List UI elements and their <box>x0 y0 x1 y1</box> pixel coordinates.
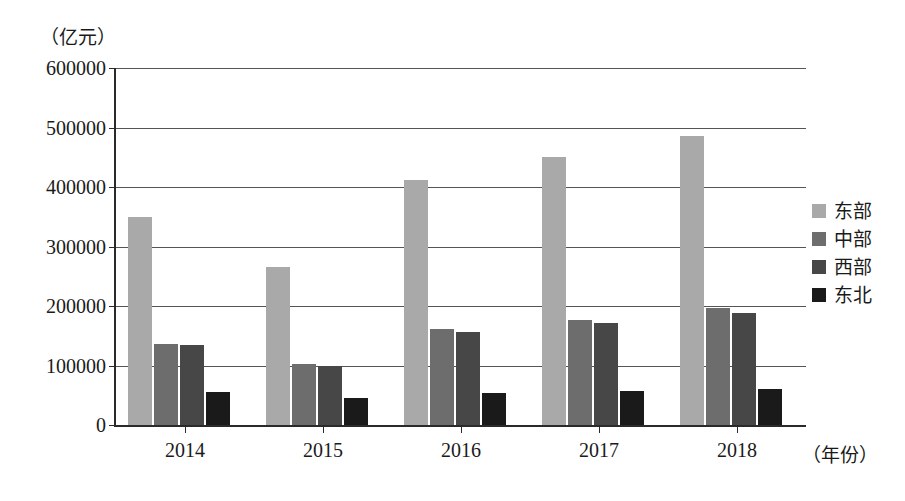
y-axis-tick <box>109 366 116 367</box>
x-axis-tick-label: 2018 <box>717 439 757 462</box>
legend-label: 东北 <box>834 286 872 305</box>
y-axis-tick <box>109 128 116 129</box>
bar-中部-2015 <box>292 364 316 425</box>
bar-东北-2016 <box>482 393 506 425</box>
bar-中部-2016 <box>430 329 454 425</box>
bar-group: 2017 <box>542 68 644 425</box>
x-axis-tick <box>737 425 738 433</box>
bar-group: 2016 <box>404 68 506 425</box>
x-axis-tick <box>323 425 324 433</box>
y-axis-tick-label: 300000 <box>46 235 106 258</box>
bar-西部-2015 <box>318 366 342 426</box>
x-axis-tick-label: 2014 <box>165 439 205 462</box>
x-axis-tick-label: 2016 <box>441 439 481 462</box>
x-axis-tick <box>599 425 600 433</box>
bar-中部-2014 <box>154 344 178 426</box>
y-axis-tick-label: 600000 <box>46 57 106 80</box>
legend-item-中部[interactable]: 中部 <box>812 225 902 253</box>
y-axis-unit-label: （亿元） <box>40 22 116 49</box>
bar-东北-2018 <box>758 389 782 425</box>
legend-label: 东部 <box>834 202 872 221</box>
legend-item-东部[interactable]: 东部 <box>812 197 902 225</box>
legend-label: 西部 <box>834 258 872 277</box>
bar-西部-2016 <box>456 332 480 425</box>
bar-中部-2017 <box>568 320 592 425</box>
bar-东部-2016 <box>404 180 428 425</box>
legend-label: 中部 <box>834 230 872 249</box>
bar-东北-2017 <box>620 391 644 425</box>
x-axis-tick <box>185 425 186 433</box>
bar-group: 2015 <box>266 68 368 425</box>
y-axis-tick <box>109 68 116 69</box>
y-axis-tick <box>109 247 116 248</box>
bar-chart: （亿元） 01000002000003000004000005000006000… <box>0 0 905 501</box>
legend-swatch-icon <box>812 232 826 246</box>
bar-中部-2018 <box>706 308 730 425</box>
bar-西部-2014 <box>180 345 204 425</box>
bar-groups: 20142015201620172018 <box>116 68 806 425</box>
y-axis-tick-label: 100000 <box>46 354 106 377</box>
y-axis-tick <box>109 306 116 307</box>
y-axis-tick <box>109 187 116 188</box>
legend-item-东北[interactable]: 东北 <box>812 281 902 309</box>
bar-东部-2015 <box>266 267 290 425</box>
legend-swatch-icon <box>812 288 826 302</box>
x-axis-tick <box>461 425 462 433</box>
y-axis-tick <box>109 425 116 426</box>
y-axis-tick-label: 0 <box>96 414 106 437</box>
y-axis-tick-label: 500000 <box>46 116 106 139</box>
x-axis-title: （年份） <box>802 440 878 467</box>
legend-item-西部[interactable]: 西部 <box>812 253 902 281</box>
bar-group: 2018 <box>680 68 782 425</box>
bar-东北-2015 <box>344 398 368 425</box>
plot-area: 0100000200000300000400000500000600000 20… <box>114 68 806 427</box>
x-axis-tick-label: 2015 <box>303 439 343 462</box>
legend: 东部中部西部东北 <box>812 197 902 309</box>
bar-东北-2014 <box>206 392 230 425</box>
y-axis-tick-label: 200000 <box>46 295 106 318</box>
bar-东部-2017 <box>542 157 566 425</box>
legend-swatch-icon <box>812 204 826 218</box>
bar-西部-2018 <box>732 313 756 425</box>
bar-西部-2017 <box>594 323 618 425</box>
bar-东部-2014 <box>128 217 152 425</box>
legend-swatch-icon <box>812 260 826 274</box>
y-axis-tick-label: 400000 <box>46 176 106 199</box>
bar-东部-2018 <box>680 136 704 425</box>
x-axis-tick-label: 2017 <box>579 439 619 462</box>
bar-group: 2014 <box>128 68 230 425</box>
